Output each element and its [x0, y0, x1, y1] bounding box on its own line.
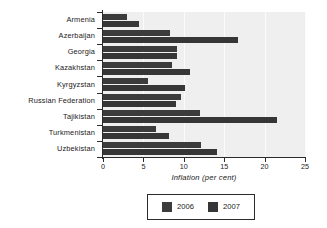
x-tick-label: 25 — [301, 163, 309, 171]
y-tick-label: Uzbekistan — [57, 145, 95, 153]
bar-2006-turkmenistan — [103, 126, 156, 132]
legend-label: 2006 — [177, 203, 194, 211]
y-tickmark — [97, 12, 102, 13]
bar-2007-armenia — [103, 21, 139, 27]
y-tick-label: Georgia — [68, 48, 95, 56]
y-tickmark — [97, 157, 102, 158]
gridline — [265, 12, 266, 157]
y-tickmark — [97, 60, 102, 61]
y-tick-label: Azerbaijan — [59, 32, 95, 40]
legend-label: 2007 — [223, 203, 240, 211]
bar-2006-uzbekistan — [103, 142, 201, 148]
bar-2006-kyrgyzstan — [103, 78, 148, 84]
y-tickmark — [97, 125, 102, 126]
inflation-bar-chart: ArmeniaAzerbaijanGeorgiaKazakhstanKyrgyz… — [0, 0, 327, 228]
x-tick-label: 20 — [261, 163, 269, 171]
bar-2006-azerbaijan — [103, 30, 170, 36]
bar-2006-armenia — [103, 14, 127, 20]
bar-2007-russian-federation — [103, 101, 176, 107]
bar-2006-kazakhstan — [103, 62, 172, 68]
x-tick-label: 5 — [141, 163, 145, 171]
gridline — [305, 12, 306, 157]
bar-2006-georgia — [103, 46, 177, 52]
legend-swatch-icon — [208, 202, 218, 212]
x-tick-label: 15 — [220, 163, 228, 171]
bar-2007-azerbaijan — [103, 37, 238, 43]
y-tick-label: Russian Federation — [28, 97, 95, 105]
chart-legend: 20062007 — [147, 194, 255, 220]
y-tickmark — [97, 28, 102, 29]
legend-entry-2007[interactable]: 2007 — [208, 202, 240, 212]
y-tick-label: Kazakhstan — [55, 64, 95, 72]
bar-2006-tajikistan — [103, 110, 200, 116]
y-axis-category-labels: ArmeniaAzerbaijanGeorgiaKazakhstanKyrgyz… — [0, 12, 99, 157]
bar-2007-georgia — [103, 53, 177, 59]
bar-2007-tajikistan — [103, 117, 277, 123]
y-tickmark — [97, 109, 102, 110]
bar-2007-turkmenistan — [103, 133, 169, 139]
x-tick-label: 0 — [101, 163, 105, 171]
y-tick-label: Kyrgyzstan — [57, 81, 95, 89]
bar-2007-kyrgyzstan — [103, 85, 185, 91]
bar-2007-kazakhstan — [103, 69, 190, 75]
legend-entry-2006[interactable]: 2006 — [162, 202, 194, 212]
y-tick-label: Turkmenistan — [49, 129, 95, 137]
y-tickmark — [97, 44, 102, 45]
y-tick-label: Tajikistan — [63, 113, 95, 121]
y-tick-label: Armenia — [66, 16, 95, 24]
legend-swatch-icon — [162, 202, 172, 212]
y-tickmark — [97, 93, 102, 94]
plot-block: ArmeniaAzerbaijanGeorgiaKazakhstanKyrgyz… — [0, 12, 327, 162]
y-tickmark — [97, 76, 102, 77]
y-tickmark — [97, 141, 102, 142]
x-axis-line — [102, 157, 306, 158]
x-axis-title: Inflation (per cent) — [103, 173, 305, 182]
x-tick-label: 10 — [180, 163, 188, 171]
gridline — [224, 12, 225, 157]
bar-2006-russian-federation — [103, 94, 181, 100]
bar-2007-uzbekistan — [103, 149, 217, 155]
